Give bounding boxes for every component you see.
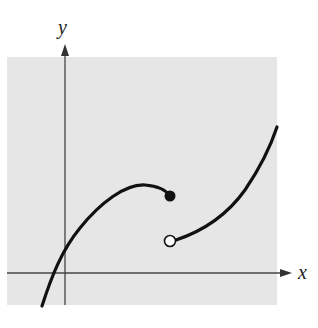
plot-background	[7, 57, 277, 305]
open-endpoint-circle	[165, 236, 176, 247]
graph-canvas: x y	[0, 0, 318, 328]
x-axis-arrow-icon	[280, 269, 292, 277]
y-axis-label: y	[56, 16, 67, 39]
closed-endpoint-dot	[165, 191, 176, 202]
x-axis-label: x	[297, 261, 307, 283]
y-axis-arrow-icon	[61, 44, 69, 56]
